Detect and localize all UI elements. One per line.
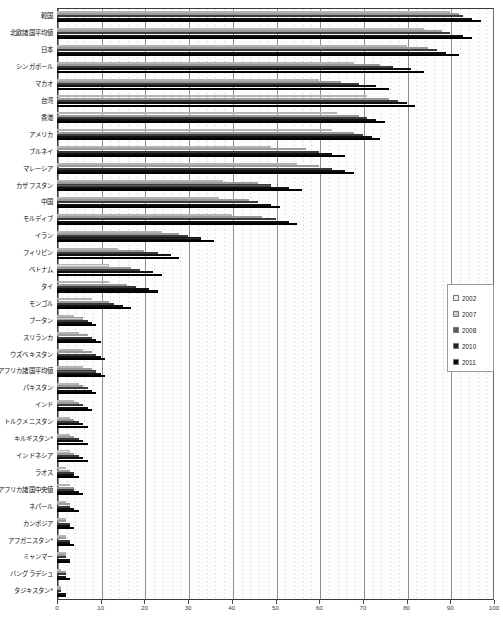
x-tick-label: 30 bbox=[185, 604, 192, 611]
bar-row: シンガポール bbox=[57, 59, 494, 76]
bar-group bbox=[57, 312, 494, 329]
legend-item-2011: 2011 bbox=[453, 354, 493, 370]
bar-row: インドネシア bbox=[57, 448, 494, 465]
bar-2011 bbox=[57, 578, 70, 580]
category-label: タジキスタン* bbox=[14, 588, 53, 594]
bar-row: 北欧諸国平均値 bbox=[57, 25, 494, 42]
category-label: スリランカ bbox=[23, 334, 54, 340]
bar-row: ラオス bbox=[57, 464, 494, 481]
bar-row: タイ bbox=[57, 279, 494, 296]
legend-swatch-icon bbox=[453, 343, 459, 349]
legend-label: 2010 bbox=[462, 343, 476, 350]
bar-row: 日本 bbox=[57, 42, 494, 59]
bar-group bbox=[57, 59, 494, 76]
category-label: ミャンマー bbox=[23, 554, 54, 560]
bar-row: 中国 bbox=[57, 194, 494, 211]
bar-group bbox=[57, 109, 494, 126]
category-label: ブルネイ bbox=[29, 149, 53, 155]
bar-group bbox=[57, 177, 494, 194]
category-label: ネパール bbox=[29, 504, 53, 510]
x-tick-label: 0 bbox=[55, 604, 58, 611]
legend-swatch-icon bbox=[453, 295, 459, 301]
bar-row: 香港 bbox=[57, 109, 494, 126]
legend-swatch-icon bbox=[453, 311, 459, 317]
bar-group bbox=[57, 549, 494, 566]
category-label: 香港 bbox=[41, 115, 53, 121]
category-label: ウズベキスタン bbox=[10, 351, 53, 357]
bar-2011 bbox=[57, 409, 92, 411]
category-label: カンボジア bbox=[23, 520, 54, 526]
bar-group bbox=[57, 194, 494, 211]
bar-2011 bbox=[57, 257, 179, 259]
bar-2011 bbox=[57, 561, 70, 563]
bar-row: マレーシア bbox=[57, 160, 494, 177]
category-label: 台湾 bbox=[41, 98, 53, 104]
bar-group bbox=[57, 583, 494, 600]
bar-group bbox=[57, 414, 494, 431]
bar-2011 bbox=[57, 20, 481, 22]
bar-2011 bbox=[57, 358, 105, 360]
bar-2011 bbox=[57, 527, 74, 529]
bar-row: ベトナム bbox=[57, 262, 494, 279]
category-label: 韓国 bbox=[41, 13, 53, 19]
category-label: ブータン bbox=[29, 318, 53, 324]
category-label: 日本 bbox=[41, 47, 53, 53]
bar-2011 bbox=[57, 88, 389, 90]
bar-2011 bbox=[57, 510, 79, 512]
category-label: イラン bbox=[35, 233, 53, 239]
bar-row: カザフスタン bbox=[57, 177, 494, 194]
category-label: タイ bbox=[41, 284, 53, 290]
x-tick-label: 50 bbox=[272, 604, 279, 611]
category-label: トルクメニスタン bbox=[4, 419, 53, 425]
bar-row: モルディブ bbox=[57, 211, 494, 228]
bar-2011 bbox=[57, 290, 158, 292]
bar-row: ネパール bbox=[57, 498, 494, 515]
category-label: インドネシア bbox=[16, 453, 53, 459]
bar-2011 bbox=[57, 105, 415, 107]
bar-2011 bbox=[57, 476, 79, 478]
bar-group bbox=[57, 566, 494, 583]
bar-group bbox=[57, 448, 494, 465]
bar-row: マカオ bbox=[57, 76, 494, 93]
bar-row: キルギスタン* bbox=[57, 431, 494, 448]
category-label: ベトナム bbox=[29, 267, 53, 273]
bar-row: ブルネイ bbox=[57, 143, 494, 160]
bar-group bbox=[57, 431, 494, 448]
legend-item-2002: 2002 bbox=[453, 290, 493, 306]
bar-row: フィリピン bbox=[57, 245, 494, 262]
bar-2011 bbox=[57, 71, 424, 73]
category-label: アフガニスタン* bbox=[8, 537, 53, 543]
bar-2011 bbox=[57, 155, 345, 157]
bar-group bbox=[57, 346, 494, 363]
bar-group bbox=[57, 126, 494, 143]
category-label: マレーシア bbox=[23, 165, 54, 171]
bar-group bbox=[57, 143, 494, 160]
legend-item-2008: 2008 bbox=[453, 322, 493, 338]
bar-2011 bbox=[57, 189, 302, 191]
bar-group bbox=[57, 498, 494, 515]
category-label: カザフスタン bbox=[16, 182, 53, 188]
category-label: モルディブ bbox=[23, 216, 54, 222]
bar-group bbox=[57, 481, 494, 498]
horizontal-bar-chart: 韓国北欧諸国平均値日本シンガポールマカオ台湾香港アメリカブルネイマレーシアカザフ… bbox=[0, 0, 503, 632]
legend-item-2007: 2007 bbox=[453, 306, 493, 322]
x-tick-label: 100 bbox=[489, 604, 499, 611]
bar-row: アフリカ諸国中央値 bbox=[57, 481, 494, 498]
bar-2011 bbox=[57, 460, 88, 462]
bar-group bbox=[57, 211, 494, 228]
x-tick-label: 10 bbox=[97, 604, 104, 611]
bar-2011 bbox=[57, 121, 385, 123]
category-label: バングラデシュ bbox=[10, 571, 53, 577]
bar-group bbox=[57, 262, 494, 279]
bar-group bbox=[57, 25, 494, 42]
bar-2011 bbox=[57, 206, 280, 208]
bar-row: ミャンマー bbox=[57, 549, 494, 566]
bar-row: アメリカ bbox=[57, 126, 494, 143]
bar-group bbox=[57, 93, 494, 110]
bar-row: ウズベキスタン bbox=[57, 346, 494, 363]
bar-row: モンゴル bbox=[57, 295, 494, 312]
bar-row: イラン bbox=[57, 228, 494, 245]
bar-row: 韓国 bbox=[57, 8, 494, 25]
category-label: インド bbox=[35, 402, 53, 408]
category-label: モンゴル bbox=[29, 301, 53, 307]
